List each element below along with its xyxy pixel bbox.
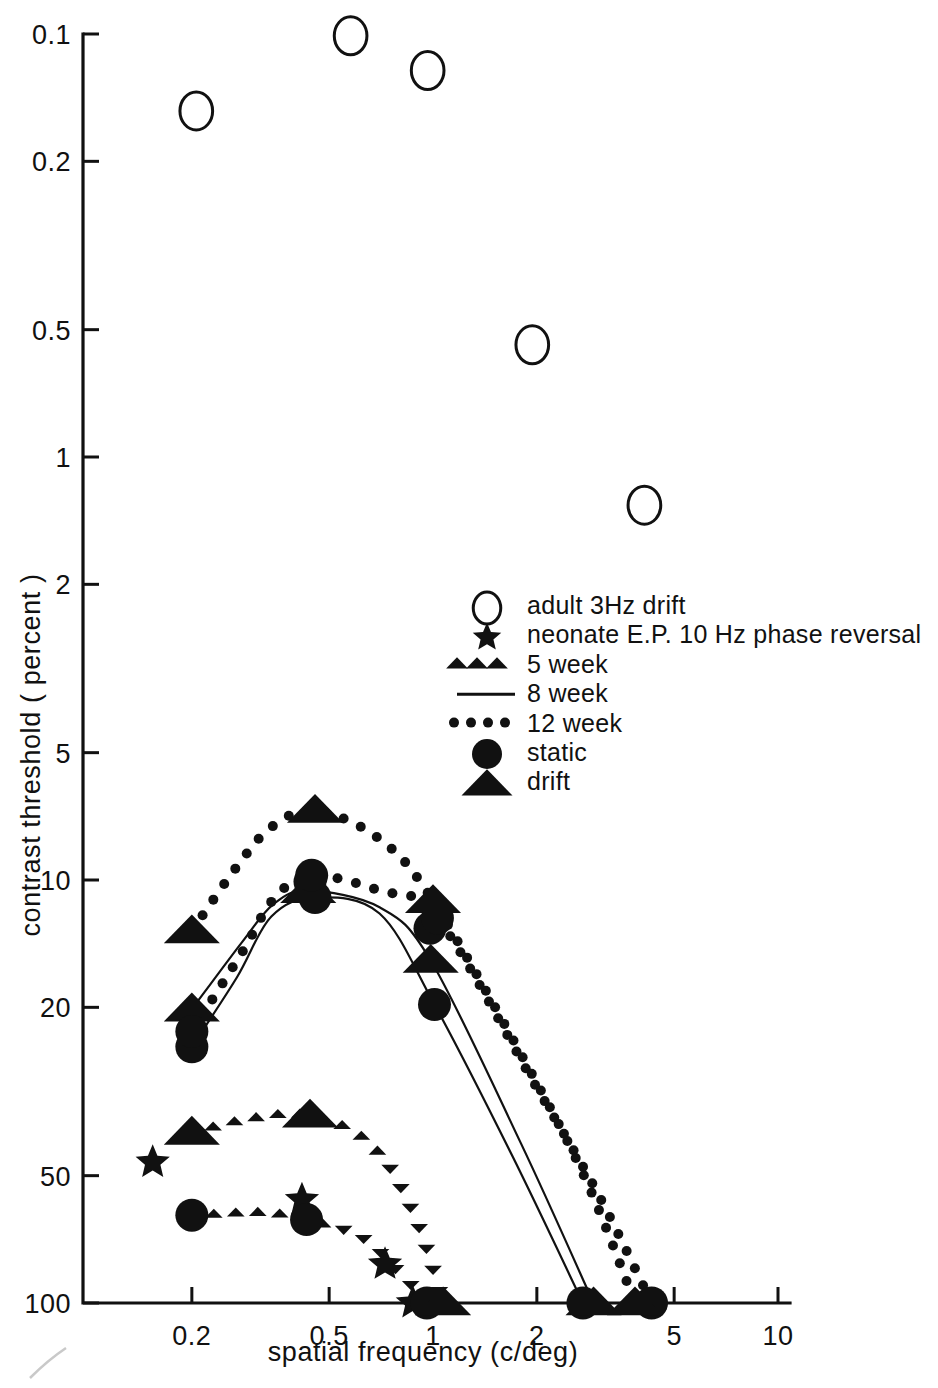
y-tick-label: 0.5	[32, 316, 71, 346]
open-circle-marker	[516, 326, 549, 364]
y-tick-label: 100	[24, 1289, 71, 1319]
filled-triangle-marker	[462, 769, 513, 795]
open-circle-marker	[628, 486, 661, 524]
curve-12week-drift	[187, 805, 638, 1303]
legend-item-neonate: neonate E.P. 10 Hz phase reversal	[473, 620, 922, 649]
curve-dot	[254, 834, 264, 844]
star-marker	[136, 1144, 170, 1177]
filled-circle-marker	[418, 988, 451, 1021]
legend-dot	[483, 718, 493, 728]
curve-dot	[247, 930, 257, 940]
curve-dot	[481, 986, 491, 996]
legend-dot	[466, 718, 476, 728]
curve-dot	[219, 879, 229, 889]
legend-item-drift: drift	[462, 767, 571, 795]
series-8-week-static	[175, 865, 599, 1319]
filled-triangle-marker	[369, 1146, 387, 1155]
curve-dot	[208, 895, 218, 905]
curve-dot	[207, 994, 217, 1004]
solid-curve	[192, 891, 594, 1303]
curve-8week-drift	[192, 891, 594, 1303]
curve-dot	[356, 822, 366, 832]
curve-dot	[268, 821, 278, 831]
curve-dot	[630, 1263, 640, 1273]
curve-dot	[527, 1069, 537, 1079]
curve-dot	[601, 1223, 611, 1233]
filled-triangle-marker	[249, 1207, 267, 1216]
curve-dot	[198, 910, 208, 920]
curve-dot	[518, 1052, 528, 1062]
curve-dot	[605, 1212, 615, 1222]
curve-dot	[594, 1205, 604, 1215]
down-triangle-marker	[335, 1226, 353, 1235]
curve-dot	[508, 1036, 518, 1046]
filled-triangle-marker	[269, 1109, 287, 1118]
curve-dot	[499, 1019, 509, 1029]
series-adult-3hz-drift	[180, 17, 661, 524]
filled-triangle-marker	[226, 1116, 244, 1125]
filled-triangle-marker	[247, 1112, 265, 1121]
curve-dot	[622, 1276, 632, 1286]
curve-dot	[608, 1240, 618, 1250]
x-tick-label: 10	[762, 1321, 793, 1351]
filled-triangle-marker	[466, 657, 488, 668]
curve-dot	[554, 1119, 564, 1129]
legend-item-5: 5 week	[446, 650, 608, 678]
filled-triangle-marker	[486, 657, 508, 668]
curve-dot	[228, 962, 238, 972]
series-5-week-drift	[164, 1099, 471, 1316]
curve-dot	[412, 872, 422, 882]
star-marker	[368, 1246, 402, 1279]
curve-dot	[462, 953, 472, 963]
curve-dot	[562, 1136, 572, 1146]
down-triangle-marker	[392, 1184, 410, 1193]
down-triangle-marker	[381, 1165, 399, 1174]
figure-canvas: 0.10.20.51251020501000.20.512510spatial …	[0, 0, 938, 1388]
curve-dot	[490, 1002, 500, 1012]
down-triangle-marker	[402, 1281, 420, 1290]
curve-dot	[596, 1195, 606, 1205]
filled-triangle-marker	[227, 1207, 245, 1216]
filled-triangle-marker	[271, 1208, 289, 1217]
legend-label: drift	[527, 767, 570, 795]
curve-dot	[406, 891, 416, 901]
legend-dot	[500, 718, 510, 728]
curve-5week-drift	[183, 1109, 448, 1296]
curve-dot	[587, 1178, 597, 1188]
filled-triangle-marker	[353, 1131, 371, 1140]
curve-dot	[579, 1170, 589, 1180]
solid-curve	[192, 897, 583, 1303]
curve-dot	[571, 1153, 581, 1163]
curve-dot	[351, 878, 361, 888]
curve-dot	[369, 884, 379, 894]
down-triangle-marker	[418, 1245, 436, 1254]
series-8-week-drift	[164, 874, 622, 1315]
filled-triangle-marker	[204, 1121, 222, 1130]
scan-artifact	[30, 1348, 66, 1378]
open-circle-marker	[473, 592, 501, 624]
y-axis-title: contrast threshold ( percent )	[16, 573, 46, 936]
curve-dot	[587, 1188, 597, 1198]
axis-lines	[83, 34, 790, 1303]
curve-dot	[545, 1102, 555, 1112]
legend-label: neonate E.P. 10 Hz phase reversal	[527, 620, 921, 648]
curve-dot	[256, 913, 266, 923]
filled-circle-marker	[290, 1203, 323, 1236]
x-tick-label: 0.2	[172, 1321, 211, 1351]
legend-item-static: static	[472, 738, 587, 769]
legend-label: 12 week	[527, 709, 622, 737]
curve-dot	[242, 848, 252, 858]
filled-triangle-marker	[164, 914, 220, 943]
filled-circle-marker	[175, 1199, 208, 1232]
down-triangle-marker	[424, 1266, 442, 1275]
legend-dot	[449, 718, 459, 728]
filled-triangle-marker	[287, 794, 343, 823]
contrast-sensitivity-chart: 0.10.20.51251020501000.20.512510spatial …	[0, 0, 938, 1388]
curve-dot	[387, 888, 397, 898]
filled-triangle-marker	[446, 657, 468, 668]
y-tick-label: 5	[55, 739, 71, 769]
legend-item-8: 8 week	[457, 679, 608, 707]
y-tick-label: 20	[40, 993, 71, 1023]
curve-dot	[578, 1162, 588, 1172]
open-circle-marker	[411, 52, 444, 90]
